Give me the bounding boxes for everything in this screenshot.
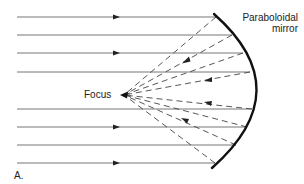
reflected-ray [124,72,250,95]
reflected-ray [124,17,216,95]
arrow-left-icon [204,101,212,106]
mirror-label-line1: Paraboloidal [230,12,298,23]
reflected-ray [124,95,252,109]
arrow-right-icon [113,51,120,56]
reflected-ray [124,95,215,163]
reflected-ray [124,53,243,95]
ray-arrow-icons [113,15,120,166]
incoming-rays [17,17,252,163]
arrow-right-icon [113,125,120,130]
arrow-left-icon [204,77,212,82]
focus-arrow-icon [120,92,128,99]
panel-label: A. [14,170,23,181]
reflected-ray [124,35,232,95]
reflected-ray [124,95,236,145]
focus-label: Focus [84,89,111,100]
mirror-label-line2: mirror [230,23,298,34]
arrow-right-icon [113,15,120,20]
mirror-label: Paraboloidal mirror [230,12,298,34]
arrow-right-icon [113,161,120,166]
arrow-left-icon [182,57,191,64]
reflected-rays [124,17,252,163]
